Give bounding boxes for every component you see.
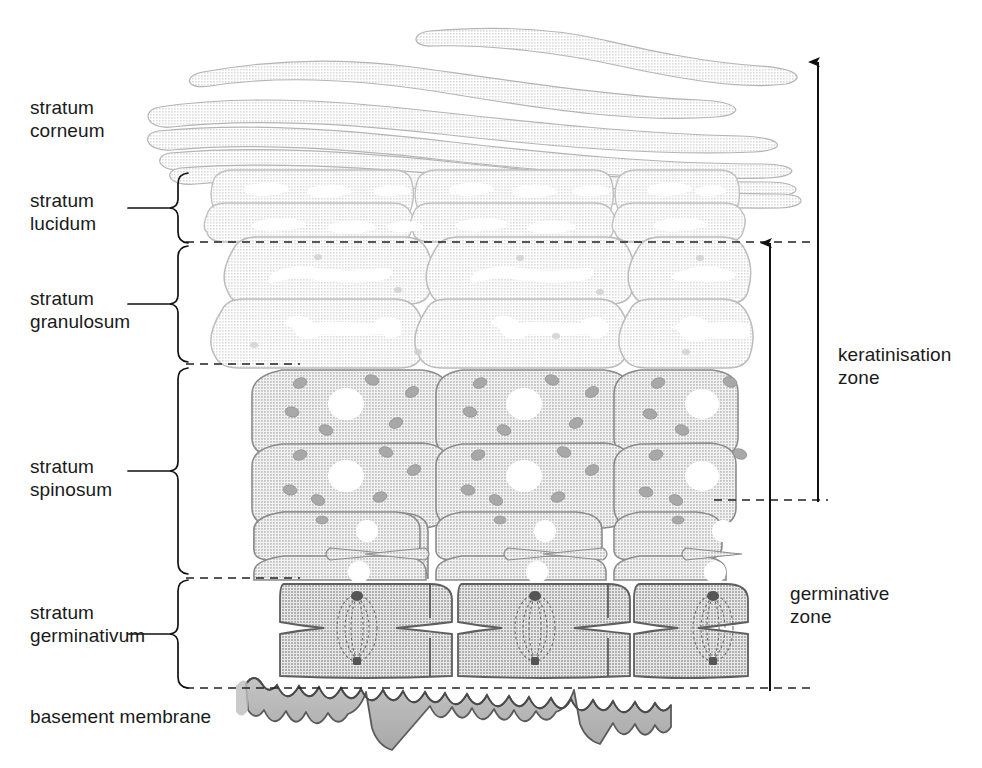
label-stratum-corneum: stratum corneum xyxy=(30,96,105,142)
label-stratum-spinosum: stratum spinosum xyxy=(30,455,112,501)
label-stratum-granulosum: stratum granulosum xyxy=(30,287,130,333)
stratum-granulosum-cells xyxy=(211,237,753,368)
stratum-germinativum-cells xyxy=(280,584,748,678)
label-basement-membrane: basement membrane xyxy=(30,705,211,728)
label-germinative-zone: germinative zone xyxy=(790,582,889,628)
label-stratum-lucidum: stratum lucidum xyxy=(30,189,96,235)
brace-granulosum xyxy=(170,246,188,362)
label-keratinisation-zone: keratinisation zone xyxy=(838,343,951,389)
epidermis-diagram: stratum corneum stratum lucidum stratum … xyxy=(0,0,982,768)
brace-spinosum xyxy=(170,368,188,574)
brace-germinativum xyxy=(170,580,188,688)
stratum-spinosum-cells xyxy=(252,370,738,580)
basement-membrane xyxy=(232,678,671,750)
diagram-canvas xyxy=(0,0,982,768)
label-stratum-germinativum: stratum germinativum xyxy=(30,601,145,647)
